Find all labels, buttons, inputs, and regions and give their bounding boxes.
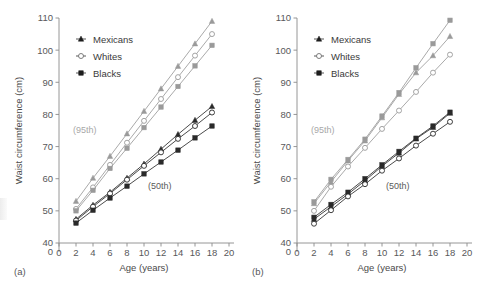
data-point [312, 221, 317, 226]
x-tick-label: 2 [311, 247, 316, 258]
percentile-95-label: (95th) [73, 125, 97, 135]
data-point [210, 110, 215, 115]
data-point [159, 105, 163, 109]
x-axis-ticks: 02468101214161820 [294, 243, 472, 258]
legend-label: Mexicans [331, 34, 371, 45]
series-5 [74, 124, 214, 225]
y-axis-break-label: 0 [48, 246, 53, 257]
legend-label: Whites [331, 51, 360, 62]
y-axis-break-label: 0 [286, 246, 291, 257]
data-point [448, 52, 453, 57]
data-point [108, 166, 112, 170]
series-group [73, 18, 214, 225]
y-tick-label: 100 [37, 45, 53, 56]
x-tick-label: 0 [294, 247, 299, 258]
data-point [210, 43, 214, 47]
x-tick-label: 4 [328, 247, 333, 258]
data-point [329, 184, 334, 189]
data-point [346, 164, 351, 169]
data-point [193, 53, 198, 58]
legend-marker-circle-open [79, 54, 84, 59]
series-5 [312, 119, 453, 226]
x-tick-label: 14 [411, 247, 422, 258]
x-tick-label: 10 [139, 247, 150, 258]
data-point [176, 84, 180, 88]
percentile-50-label: (50th) [148, 181, 172, 191]
data-point [431, 42, 435, 46]
y-tick-label: 70 [280, 141, 291, 152]
x-tick-label: 18 [445, 247, 456, 258]
x-tick-label: 8 [124, 247, 129, 258]
data-point [176, 148, 180, 152]
data-point [108, 196, 112, 200]
data-point [209, 18, 214, 23]
data-point [448, 18, 452, 22]
chart-panel-b: 405060708090100110002468101214161820Wais… [238, 0, 476, 289]
x-tick-label: 20 [462, 247, 473, 258]
y-tick-label: 50 [280, 205, 291, 216]
data-point [346, 194, 351, 199]
data-point [414, 143, 419, 148]
y-tick-label: 50 [42, 205, 53, 216]
x-tick-label: 4 [90, 247, 95, 258]
data-point [125, 184, 129, 188]
data-point [176, 75, 181, 80]
y-tick-label: 60 [42, 173, 53, 184]
data-point [175, 131, 180, 136]
data-point [192, 117, 197, 122]
series-group [311, 18, 452, 226]
chart-svg-b: 405060708090100110002468101214161820Wais… [238, 0, 476, 289]
x-tick-label: 0 [56, 247, 61, 258]
data-point [108, 191, 113, 196]
series-0 [312, 18, 452, 204]
legend-label: Blacks [93, 68, 121, 79]
y-tick-label: 80 [280, 109, 291, 120]
data-point [193, 124, 198, 129]
x-tick-label: 12 [156, 247, 167, 258]
legend: MexicansWhitesBlacks [314, 34, 371, 79]
x-tick-label: 16 [190, 247, 201, 258]
legend-marker-square [79, 71, 83, 75]
x-tick-label: 6 [345, 247, 350, 258]
data-point [176, 136, 181, 141]
x-axis-title: Age (years) [357, 262, 406, 273]
data-point [414, 89, 419, 94]
data-point [209, 103, 214, 108]
legend-marker-circle-open [317, 54, 322, 59]
data-point [329, 208, 334, 213]
y-tick-label: 110 [38, 12, 53, 23]
data-point [363, 182, 368, 187]
y-tick-label: 100 [275, 45, 291, 56]
data-point [397, 108, 402, 113]
x-axis-title: Age (years) [119, 262, 168, 273]
data-point [210, 32, 215, 37]
x-tick-label: 8 [362, 247, 367, 258]
legend-label: Blacks [331, 68, 359, 79]
data-point [91, 188, 95, 192]
x-tick-label: 14 [173, 247, 184, 258]
data-point [74, 209, 78, 213]
data-point [142, 172, 146, 176]
data-point [210, 124, 214, 128]
data-point [142, 125, 146, 129]
y-tick-label: 90 [42, 77, 53, 88]
y-tick-label: 110 [276, 12, 291, 23]
series-line [314, 20, 450, 202]
data-point [125, 140, 130, 145]
data-point [125, 146, 129, 150]
data-point [74, 221, 78, 225]
x-tick-label: 18 [207, 247, 218, 258]
data-point [380, 126, 385, 131]
y-tick-label: 80 [42, 109, 53, 120]
legend-marker-square [317, 71, 321, 75]
panel-label: (a) [14, 266, 26, 277]
data-point [91, 208, 95, 212]
data-point [159, 160, 163, 164]
data-point [193, 136, 197, 140]
data-point [431, 70, 436, 75]
data-point [159, 150, 164, 155]
x-tick-label: 12 [394, 247, 405, 258]
x-tick-label: 2 [73, 247, 78, 258]
data-point [448, 119, 453, 124]
x-tick-label: 10 [377, 247, 388, 258]
